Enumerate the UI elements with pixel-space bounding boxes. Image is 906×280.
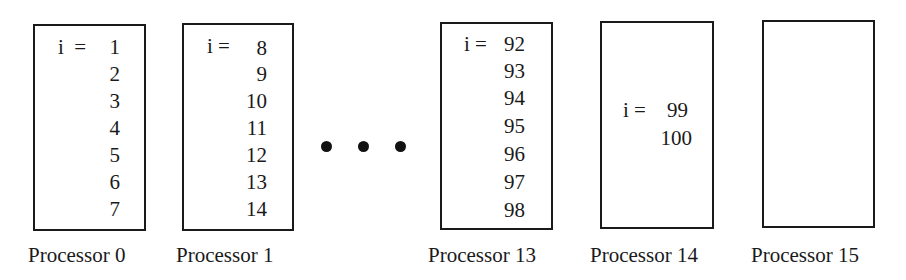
processor-13-prefix: i = <box>464 34 487 55</box>
processor-14-box <box>600 21 714 229</box>
ellipsis-dot <box>395 141 406 152</box>
iteration-value: 100 <box>650 128 692 149</box>
processor-1-prefix: i = <box>207 36 230 57</box>
iteration-value: 96 <box>498 144 525 165</box>
iteration-value: 9 <box>240 64 267 85</box>
iteration-value: 12 <box>240 145 267 166</box>
ellipsis-dot <box>321 141 332 152</box>
iteration-value: 99 <box>650 100 688 121</box>
processor-1-box <box>182 23 294 231</box>
iteration-value: 3 <box>100 91 120 112</box>
iteration-value: 93 <box>498 61 525 82</box>
iteration-value: 6 <box>100 172 120 193</box>
iteration-value: 98 <box>498 200 525 221</box>
ellipsis-dot <box>358 141 369 152</box>
processor-15-box <box>762 20 875 228</box>
iteration-value: 11 <box>240 118 267 139</box>
iteration-value: 2 <box>100 64 120 85</box>
iteration-value: 5 <box>100 145 120 166</box>
iteration-value: 95 <box>498 116 525 137</box>
iteration-value: 8 <box>240 38 267 59</box>
iteration-value: 97 <box>498 172 525 193</box>
iteration-value: 94 <box>498 88 525 109</box>
processor-14-prefix: i = <box>623 100 646 121</box>
iteration-value: 10 <box>240 91 267 112</box>
iteration-value: 4 <box>100 118 120 139</box>
processor-0-prefix: i = <box>58 37 86 58</box>
processor-14-label: Processor 14 <box>590 245 698 266</box>
processor-1-label: Processor 1 <box>176 245 273 266</box>
processor-0-label: Processor 0 <box>28 245 125 266</box>
iteration-value: 92 <box>498 34 525 55</box>
processor-13-label: Processor 13 <box>428 245 536 266</box>
iteration-value: 7 <box>100 199 120 220</box>
iteration-value: 13 <box>240 172 267 193</box>
processor-15-label: Processor 15 <box>751 245 859 266</box>
processor-13-box <box>440 22 553 230</box>
iteration-value: 1 <box>100 37 120 58</box>
iteration-value: 14 <box>240 199 267 220</box>
processor-0-box <box>33 24 146 231</box>
